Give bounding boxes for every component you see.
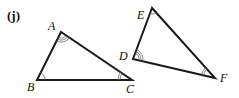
- part-label: (j): [7, 8, 20, 23]
- vertex-label-e: E: [136, 8, 145, 22]
- triangles-diagram: (j) A B C: [0, 0, 239, 98]
- vertex-label-d: D: [118, 49, 128, 63]
- triangle-def-edges: [133, 8, 215, 78]
- vertex-label-a: A: [47, 19, 56, 33]
- vertex-label-f: F: [219, 71, 228, 85]
- angle-b-marker: [41, 73, 45, 80]
- triangle-abc-edges: [37, 32, 132, 80]
- similar-triangles-figure: (j) A B C: [0, 0, 239, 98]
- triangle-def: E D F: [118, 8, 228, 85]
- vertex-label-b: B: [27, 80, 35, 94]
- vertex-label-c: C: [126, 82, 135, 96]
